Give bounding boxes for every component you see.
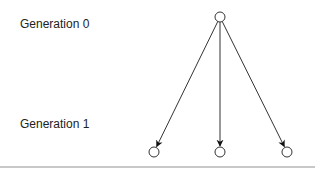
- tree-diagram: [0, 0, 315, 171]
- edges: [157, 21, 285, 146]
- g1-node-right: [282, 147, 292, 157]
- g0-node: [215, 12, 225, 22]
- bottom-divider: [0, 166, 315, 168]
- g1-node-left: [149, 147, 159, 157]
- edge-arrow: [222, 21, 284, 146]
- edge-arrow: [157, 21, 218, 146]
- g1-node-middle: [215, 147, 225, 157]
